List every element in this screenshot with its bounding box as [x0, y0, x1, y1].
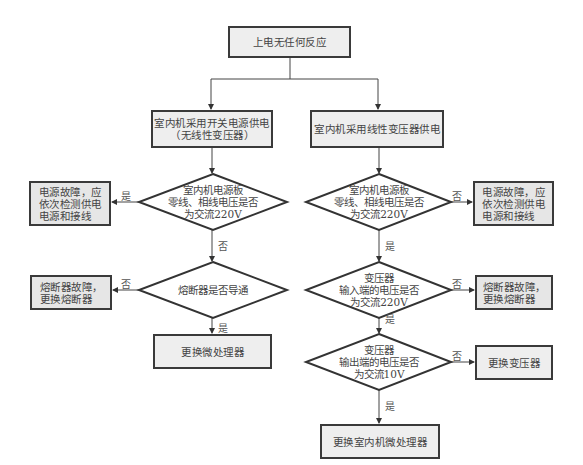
- right-branch-header: 室内机采用线性变压器供电: [310, 110, 444, 148]
- right-fuse-fault-box: 熔断器故障， 更换熔断器: [475, 275, 553, 310]
- right-power-fault-box: 电源故障，应 依次检测供电 电源和接线: [473, 181, 554, 226]
- right-decision-3-yes-label: 是: [385, 398, 395, 413]
- right-decision-3-no-label: 否: [452, 348, 462, 363]
- right-decision-1-text: 室内机电源板 零线、相线电压是否 为交流220V: [316, 182, 442, 222]
- right-decision-2-text: 变压器 输入端的电压是否 为交流220V: [316, 270, 442, 310]
- left-decision-1-no-label: 否: [218, 238, 228, 253]
- left-decision-1-yes-label: 是: [121, 188, 131, 203]
- right-decision-3-text: 变压器 输出端的电压是否 为交流10V: [316, 342, 442, 382]
- right-decision-2-no-label: 否: [452, 276, 462, 291]
- right-decision-1-yes-label: 是: [385, 238, 395, 253]
- flowchart: 上电无任何反应 室内机采用开关电源供电 （无线性变压器） 室内机采用线性变压器供…: [0, 0, 583, 465]
- connector-lines: [0, 0, 583, 465]
- right-decision-1-no-label: 否: [452, 188, 462, 203]
- left-decision-2-yes-label: 是: [218, 320, 228, 335]
- replace-microprocessor-box: 更换微处理器: [153, 334, 272, 369]
- left-fuse-fault-box: 熔断器故障， 更换熔断器: [30, 275, 112, 310]
- right-decision-2-yes-label: 是: [385, 311, 395, 326]
- left-decision-2-text: 熔断器是否导通: [150, 282, 276, 298]
- replace-indoor-microprocessor-box: 更换室内机微处理器: [320, 424, 440, 459]
- left-decision-2-no-label: 否: [121, 276, 131, 291]
- left-decision-1-text: 室内机电源板 零线、相线电压是否 为交流220V: [150, 182, 276, 222]
- left-power-fault-box: 电源故障，应 依次检测供电 电源和接线: [29, 181, 111, 226]
- left-branch-header: 室内机采用开关电源供电 （无线性变压器）: [151, 110, 273, 148]
- start-box: 上电无任何反应: [228, 26, 351, 58]
- replace-transformer-box: 更换变压器: [475, 345, 553, 380]
